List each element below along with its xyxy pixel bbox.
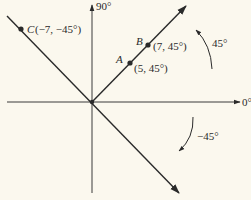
axis-label-90: 90° — [96, 0, 111, 12]
arc-positive-label: 45° — [212, 37, 227, 49]
arc-positive-arrow — [196, 30, 212, 69]
arc-negative-arrow — [179, 117, 193, 151]
axis-label-0: 0° — [242, 96, 251, 108]
point-b-coords: (7, 45°) — [153, 40, 187, 53]
point-c-label: C — [27, 23, 35, 35]
arc-negative-label: −45° — [197, 130, 219, 142]
origin-point — [90, 100, 94, 104]
point-b-marker — [145, 42, 150, 47]
point-c-coords: (−7, −45°) — [35, 23, 81, 36]
point-c-marker — [18, 26, 23, 31]
polar-diagram: 0° 90° C (−7, −45°) B (7, 45°) A (5, 45°… — [0, 0, 251, 200]
point-a-marker — [127, 60, 132, 65]
point-a-label: A — [115, 53, 123, 65]
point-a-coords: (5, 45°) — [134, 62, 168, 75]
point-b-label: B — [136, 35, 143, 47]
ray-45 — [92, 6, 186, 102]
